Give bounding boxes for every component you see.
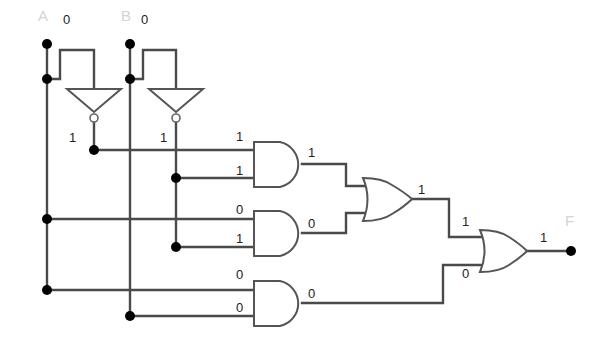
- junction-dot: [89, 145, 99, 155]
- and1-in2-value: 1: [236, 163, 243, 178]
- input-a-value: 0: [63, 12, 70, 27]
- and2-in2-value: 1: [236, 231, 243, 246]
- inversion-bubble-icon: [172, 114, 180, 122]
- and-gate-1: [254, 142, 298, 187]
- wires: [47, 44, 571, 316]
- wire-and1-to-or1: [302, 164, 368, 186]
- input-b-name: B: [121, 7, 131, 24]
- wire-not-a-out: [94, 123, 254, 150]
- and-gate-2: [254, 211, 298, 256]
- or2-in1-value: 1: [462, 214, 469, 229]
- logic-circuit-diagram: A 0 B 0 1 1 1 1 1 0 1 0 0 0 0 1 1 0 1 F: [0, 0, 615, 345]
- junction-dot: [125, 74, 135, 84]
- and1-in1-value: 1: [236, 129, 243, 144]
- or1-out-value: 1: [418, 182, 425, 197]
- and1-out-value: 1: [308, 145, 315, 160]
- inversion-bubble-icon: [90, 114, 98, 122]
- and2-in1-value: 0: [236, 202, 243, 217]
- and3-out-value: 0: [308, 286, 315, 301]
- or2-in2-value: 0: [462, 266, 469, 281]
- junction-dot: [171, 242, 181, 252]
- output-f-terminal[interactable]: [566, 246, 576, 256]
- input-b-terminal[interactable]: [125, 39, 135, 49]
- junction-nodes: [42, 39, 576, 321]
- and2-out-value: 0: [308, 216, 315, 231]
- junction-dot: [125, 311, 135, 321]
- not-a-output-value: 1: [69, 130, 76, 145]
- and-gate-3: [254, 281, 298, 326]
- or-gate-2: [480, 230, 527, 272]
- junction-dot: [42, 285, 52, 295]
- or-gate-1: [363, 178, 412, 221]
- junction-dot: [42, 74, 52, 84]
- not-gate-a: [67, 89, 121, 122]
- wire-and3-to-or2: [302, 265, 485, 303]
- and3-in2-value: 0: [236, 300, 243, 315]
- not-gate-b: [149, 89, 203, 122]
- wire-or1-to-or2: [412, 199, 485, 237]
- output-f-name: F: [565, 212, 574, 229]
- junction-dot: [171, 173, 181, 183]
- or2-out-value: 1: [540, 230, 547, 245]
- wire-a-to-not: [47, 50, 94, 89]
- junction-dot: [42, 214, 52, 224]
- not-b-output-value: 1: [160, 130, 167, 145]
- input-a-terminal[interactable]: [42, 39, 52, 49]
- wire-b-to-not: [130, 50, 176, 89]
- input-b-value: 0: [141, 12, 148, 27]
- input-a-name: A: [38, 7, 48, 24]
- and3-in1-value: 0: [236, 267, 243, 282]
